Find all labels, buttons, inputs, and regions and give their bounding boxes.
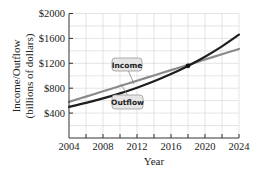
income-outflow-chart: $400$800$1200$1600$200020042008201220162… [0,0,258,173]
intersection-point [186,63,191,68]
y-axis-title-line1: Income/Outflow [10,40,22,113]
outflow-label: Outflow [111,98,144,107]
y-tick-label: $1200 [39,58,65,69]
x-tick-label: 2020 [195,141,216,152]
x-axis-title: Year [144,155,165,167]
tick-labels: $400$800$1200$1600$200020042008201220162… [39,8,251,152]
y-tick-label: $1600 [39,33,65,44]
x-tick-label: 2004 [59,141,81,152]
y-tick-label: $2000 [39,8,65,19]
y-tick-label: $800 [44,83,65,94]
x-tick-label: 2008 [93,141,114,152]
x-tick-label: 2024 [229,141,251,152]
x-tick-label: 2016 [161,141,182,152]
y-axis-title-line2: (billions of dollars) [23,33,36,118]
x-tick-label: 2012 [127,141,148,152]
y-tick-label: $400 [44,108,65,119]
income-label: Income [112,61,143,70]
